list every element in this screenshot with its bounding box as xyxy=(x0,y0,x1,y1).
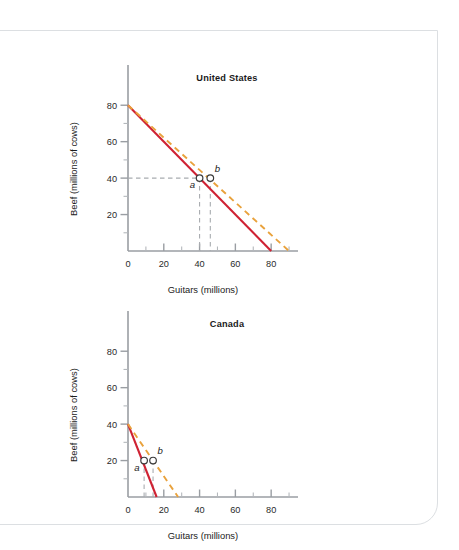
x-tick-label: 60 xyxy=(230,505,240,515)
data-point-b xyxy=(150,457,157,464)
x-tick-label: 40 xyxy=(194,505,204,515)
data-point-label-b: b xyxy=(215,163,221,174)
x-tick-label: 40 xyxy=(194,259,204,269)
data-point-a xyxy=(141,457,148,464)
chart-canada: Canada20406080020406080abGuitars (millio… xyxy=(1,279,439,526)
plot-title: United States xyxy=(196,73,257,83)
y-tick-label: 20 xyxy=(107,456,117,466)
data-point-label-a: a xyxy=(190,179,195,190)
x-tick-label: 20 xyxy=(159,259,169,269)
x-tick-label: 80 xyxy=(266,505,276,515)
y-axis-title: Beef (millions of cows) xyxy=(68,122,79,216)
x-tick-label: 0 xyxy=(125,259,130,269)
x-tick-label: 0 xyxy=(125,505,130,515)
data-point-label-b: b xyxy=(158,445,164,456)
x-tick-label: 60 xyxy=(230,259,240,269)
chart-united-states-svg: United States20406080020406080abGuitars … xyxy=(1,31,439,279)
chart-canada-svg: Canada20406080020406080abGuitars (millio… xyxy=(1,279,439,526)
chart-united-states: United States20406080020406080abGuitars … xyxy=(1,31,439,279)
x-axis-title: Guitars (millions) xyxy=(168,530,238,541)
y-tick-label: 40 xyxy=(107,420,117,430)
y-tick-label: 60 xyxy=(107,383,117,393)
y-tick-label: 40 xyxy=(107,174,117,184)
x-tick-label: 80 xyxy=(266,259,276,269)
data-point-label-a: a xyxy=(134,462,139,473)
x-tick-label: 20 xyxy=(159,505,169,515)
data-point-a xyxy=(196,175,203,182)
data-point-b xyxy=(207,175,214,182)
figure-card: United States20406080020406080abGuitars … xyxy=(0,30,438,525)
y-tick-label: 60 xyxy=(107,137,117,147)
y-tick-label: 80 xyxy=(107,347,117,357)
y-tick-label: 80 xyxy=(107,101,117,111)
plot-title: Canada xyxy=(210,319,245,329)
y-axis-title: Beef (millions of cows) xyxy=(68,368,79,462)
y-tick-label: 20 xyxy=(107,210,117,220)
